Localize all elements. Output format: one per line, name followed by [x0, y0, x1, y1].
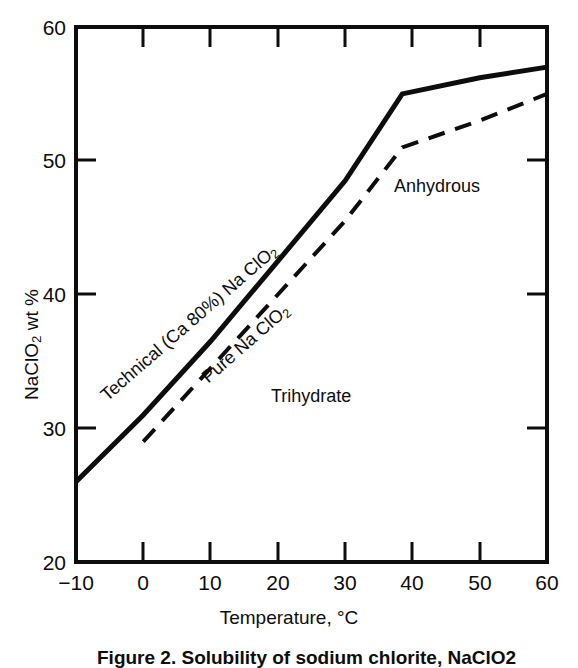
xtick-label-10: 10 [180, 572, 240, 593]
y-axis-ticks-left [76, 160, 96, 428]
y-axis-title-pre: NaClO [21, 343, 42, 400]
xtick-label-20: 20 [248, 572, 308, 593]
x-axis-title: Temperature, °C [0, 608, 578, 627]
ytick-label-30: 30 [20, 418, 66, 439]
xtick-label-neg10: −10 [46, 572, 106, 593]
ytick-label-20: 20 [20, 552, 66, 573]
xtick-label-50: 50 [450, 572, 510, 593]
xtick-label-60: 60 [517, 572, 577, 593]
plot-frame [76, 27, 547, 562]
figure-caption: Figure 2. Solubility of sodium chlorite,… [97, 648, 516, 667]
axes-box [76, 27, 547, 562]
ytick-label-50: 50 [20, 150, 66, 171]
y-axis-ticks-right [527, 160, 547, 428]
x-axis-ticks-top [143, 27, 480, 47]
x-axis-ticks-bottom [143, 542, 480, 562]
xtick-label-0: 0 [113, 572, 173, 593]
y-axis-title: NaClO2 wt % [22, 289, 43, 400]
region-label-trihydrate: Trihydrate [271, 387, 351, 405]
xtick-label-30: 30 [315, 572, 375, 593]
y-axis-title-post: wt % [21, 289, 42, 335]
region-label-anhydrous: Anhydrous [394, 177, 480, 195]
y-axis-title-sub: 2 [29, 336, 44, 343]
xtick-label-40: 40 [382, 572, 442, 593]
series-line-technical [76, 67, 547, 482]
data-series-layer [76, 67, 547, 482]
ytick-label-60: 60 [20, 17, 66, 38]
